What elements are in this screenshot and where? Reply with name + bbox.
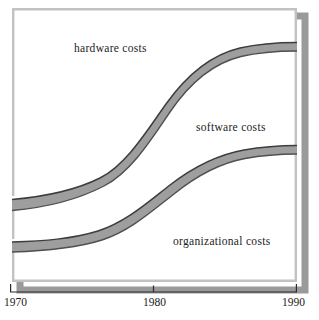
series-label-software-costs: software costs bbox=[196, 122, 266, 134]
chart-canvas bbox=[0, 0, 319, 320]
x-axis-tick-label-1980: 1980 bbox=[143, 297, 166, 309]
cost-trends-figure: hardware costs software costs organizati… bbox=[0, 0, 319, 320]
series-label-hardware-costs: hardware costs bbox=[74, 43, 147, 55]
x-axis-tick-label-1970: 1970 bbox=[4, 297, 27, 309]
series-label-organizational-costs: organizational costs bbox=[173, 236, 270, 248]
x-axis-tick-label-1990: 1990 bbox=[282, 297, 305, 309]
